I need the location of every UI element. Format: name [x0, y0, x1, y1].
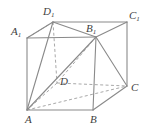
edge-B1-B: [93, 37, 96, 110]
vertex-label-A1-sub: 1: [18, 31, 22, 39]
vertex-label-C-base: C: [131, 81, 138, 93]
vertex-label-D1-sub: 1: [51, 11, 55, 19]
edge-B1-C: [96, 37, 127, 86]
edge-B1-C1: [96, 22, 127, 37]
vertex-label-C: C: [131, 82, 138, 93]
vertex-label-B: B: [90, 114, 97, 125]
vertex-label-A1: A1: [11, 26, 21, 39]
edge-A-C: [27, 86, 127, 110]
vertex-label-B1-base: B: [86, 22, 93, 34]
solid-wireframe-svg: [0, 0, 148, 130]
vertex-label-C1-sub: 1: [136, 15, 140, 23]
vertex-label-D-base: D: [60, 75, 68, 87]
vertex-label-C1: C1: [129, 10, 140, 23]
vertex-label-B-base: B: [90, 113, 97, 125]
vertex-label-A1-base: A: [11, 25, 18, 37]
geometry-figure: D1 C1 A1 B1 D C A B: [0, 0, 148, 130]
visible-edges-group: [27, 22, 127, 110]
edge-A1-B1: [27, 37, 96, 38]
vertex-label-D: D: [60, 76, 68, 87]
edge-D1-D: [53, 22, 57, 83]
vertex-label-A-base: A: [25, 113, 32, 125]
edge-B-C: [93, 86, 127, 110]
vertex-label-D1: D1: [43, 6, 54, 19]
vertex-label-D1-base: D: [43, 5, 51, 17]
vertex-label-B1-sub: 1: [93, 28, 97, 36]
vertex-label-B1: B1: [86, 23, 96, 36]
vertex-label-A: A: [25, 114, 32, 125]
